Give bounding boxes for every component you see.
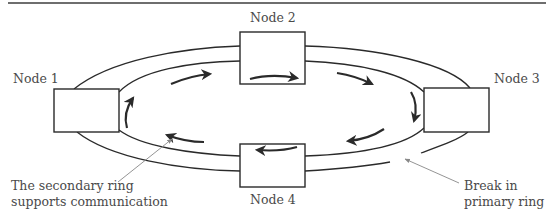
node-1-label: Node 1 bbox=[13, 72, 59, 86]
secondary-ring-annotation-line1: The secondary ring bbox=[11, 179, 134, 193]
flow-arrow-icon bbox=[167, 135, 204, 142]
break-annotation-line1: Break in bbox=[464, 179, 518, 193]
secondary-ring-annotation-line2: supports communication bbox=[11, 195, 168, 209]
inner-ring-4-3 bbox=[305, 128, 424, 156]
inner-ring-1-4 bbox=[119, 130, 240, 156]
node-1-box bbox=[54, 89, 119, 132]
inner-ring-2-3 bbox=[305, 61, 424, 92]
outer-ring-2-3 bbox=[305, 46, 470, 88]
break-pointer bbox=[405, 159, 459, 183]
inner-ring-1-2 bbox=[119, 61, 240, 92]
node-4-label: Node 4 bbox=[250, 193, 296, 207]
flow-arrow-icon bbox=[411, 92, 416, 121]
outer-ring-1-4 bbox=[77, 132, 240, 171]
node-3-box bbox=[424, 88, 489, 132]
node-2-label: Node 2 bbox=[250, 11, 296, 25]
flow-arrow-icon bbox=[337, 73, 372, 84]
outer-ring-1-2 bbox=[74, 46, 240, 89]
outer-ring-break-3 bbox=[421, 132, 468, 153]
break-annotation-line2: primary ring bbox=[464, 195, 544, 209]
flow-arrow-icon bbox=[171, 74, 210, 84]
flow-arrow-icon bbox=[126, 98, 133, 128]
outer-ring-4-break bbox=[305, 162, 390, 171]
flow-arrow-icon bbox=[348, 129, 384, 141]
node-3-label: Node 3 bbox=[494, 72, 540, 86]
secondary-ring-pointer bbox=[118, 139, 172, 182]
